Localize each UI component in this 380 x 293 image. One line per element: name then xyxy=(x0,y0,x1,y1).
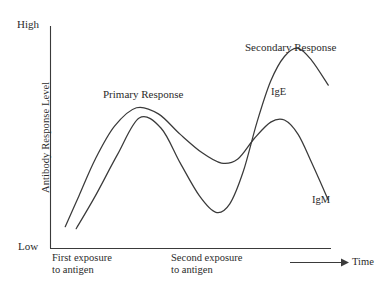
time-arrow-head xyxy=(341,259,349,267)
y-axis-low-label: Low xyxy=(18,240,38,253)
ige-curve xyxy=(76,48,328,228)
antibody-response-chart: Antibody Response Level High Low Primary… xyxy=(0,0,380,293)
igm-curve xyxy=(65,107,328,226)
secondary-response-annotation: Secondary Response xyxy=(245,41,336,54)
primary-response-annotation: Primary Response xyxy=(103,88,183,101)
y-axis-high-label: High xyxy=(17,18,39,31)
ige-series-label: IgE xyxy=(271,86,286,98)
y-axis-title: Antibody Response Level xyxy=(40,81,51,192)
second-exposure-annotation: Second exposure to antigen xyxy=(171,252,242,277)
igm-series-label: IgM xyxy=(312,194,330,206)
first-exposure-annotation: First exposure to antigen xyxy=(52,252,112,277)
x-axis-title: Time xyxy=(352,256,374,268)
